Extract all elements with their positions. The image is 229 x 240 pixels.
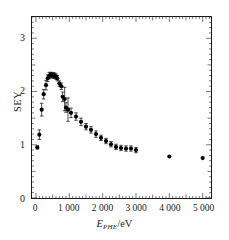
y-tick-label: 3 xyxy=(0,33,25,43)
data-point xyxy=(74,114,78,118)
data-point xyxy=(109,142,113,146)
data-point xyxy=(104,139,108,143)
x-axis-title-unit: /eV xyxy=(117,218,132,229)
data-point xyxy=(63,97,67,101)
y-tick-label: 1 xyxy=(0,140,25,150)
plot-data-area xyxy=(32,17,211,198)
error-bars-layer xyxy=(36,72,138,152)
data-point xyxy=(35,145,39,149)
data-point xyxy=(66,108,70,112)
data-point xyxy=(119,146,123,150)
data-point xyxy=(42,92,46,96)
data-point xyxy=(201,156,205,160)
x-tick-label: 5 000 xyxy=(177,203,229,213)
data-point xyxy=(134,148,138,152)
axis-ticks-layer xyxy=(32,17,211,198)
data-point xyxy=(99,136,103,140)
data-point xyxy=(89,128,93,132)
x-axis-title-subscript: PHE xyxy=(103,223,117,231)
scatter-plot-svg xyxy=(32,17,211,198)
data-point xyxy=(79,120,83,124)
data-point xyxy=(37,133,41,137)
data-point xyxy=(59,84,63,88)
plot-frame xyxy=(31,16,212,199)
data-point xyxy=(55,76,59,80)
data-points-layer xyxy=(35,73,204,160)
data-point xyxy=(69,111,73,115)
data-point xyxy=(167,154,171,158)
figure-scatter-sey: SEY 0 1 2 3 0 1 000 2 000 3 000 4 000 5 … xyxy=(0,0,229,240)
data-point xyxy=(129,146,133,150)
data-point xyxy=(124,146,128,150)
x-axis-title: EPHE/eV xyxy=(0,218,229,231)
data-point xyxy=(114,145,118,149)
data-point xyxy=(44,83,48,87)
data-point xyxy=(94,132,98,136)
data-point xyxy=(84,125,88,129)
data-point xyxy=(40,108,44,112)
y-tick-label: 2 xyxy=(0,86,25,96)
